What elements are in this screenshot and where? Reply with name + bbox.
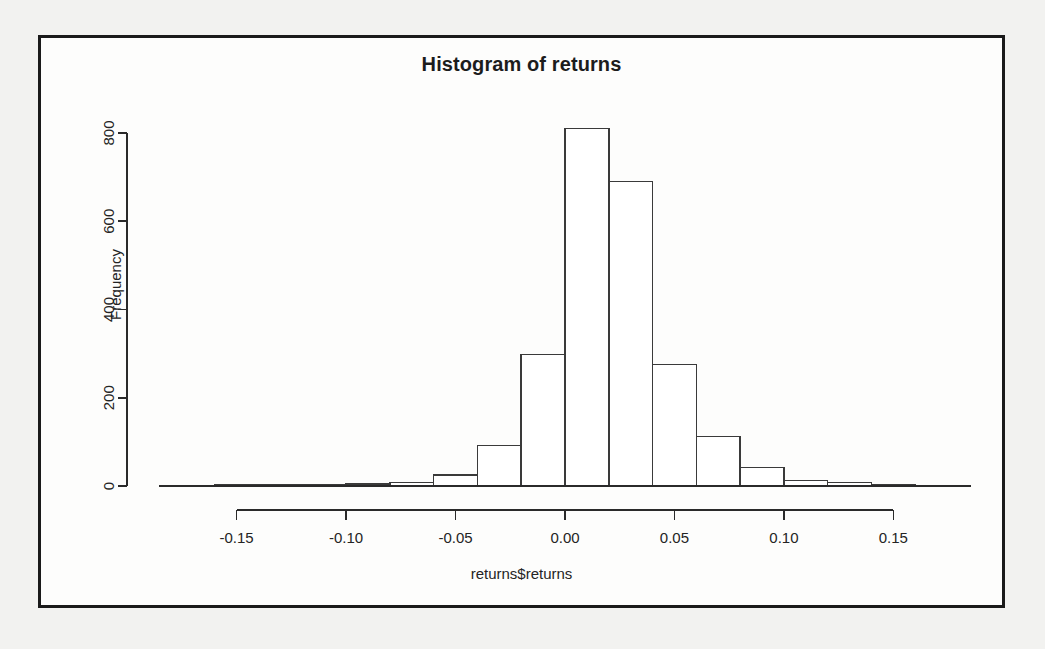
y-axis-tick-label: 800 (100, 120, 117, 145)
x-axis-tick-label: -0.10 (329, 529, 363, 546)
histogram-svg: 0200400600800 -0.15-0.10-0.050.000.050.1… (41, 38, 1008, 611)
y-axis-tick-label: 200 (100, 385, 117, 410)
x-axis-tick-label: 0.00 (550, 529, 579, 546)
y-axis-tick-label: 0 (100, 482, 117, 490)
y-axis-tick-label: 600 (100, 209, 117, 234)
x-axis-tick-label: 0.05 (660, 529, 689, 546)
x-axis: -0.15-0.10-0.050.000.050.100.15 (220, 510, 908, 546)
histogram-bar (434, 475, 478, 486)
histogram-bar (477, 445, 521, 486)
x-axis-tick-label: -0.05 (438, 529, 472, 546)
x-axis-tick-label: -0.15 (220, 529, 254, 546)
y-axis-tick-label: 400 (100, 297, 117, 322)
histogram-bar (740, 467, 784, 486)
figure-frame: Histogram of returns Frequency returns$r… (38, 35, 1005, 608)
histogram-bar (696, 437, 740, 486)
histogram-bar (609, 182, 653, 486)
x-axis-tick-label: 0.10 (769, 529, 798, 546)
histogram-bar (653, 365, 697, 486)
y-axis: 0200400600800 (100, 120, 128, 490)
x-axis-tick-label: 0.15 (879, 529, 908, 546)
page-background: Histogram of returns Frequency returns$r… (0, 0, 1045, 649)
plot-area: Histogram of returns Frequency returns$r… (41, 38, 1002, 605)
histogram-bar (565, 129, 609, 486)
histogram-bar (521, 355, 565, 486)
histogram-bars (171, 129, 959, 486)
